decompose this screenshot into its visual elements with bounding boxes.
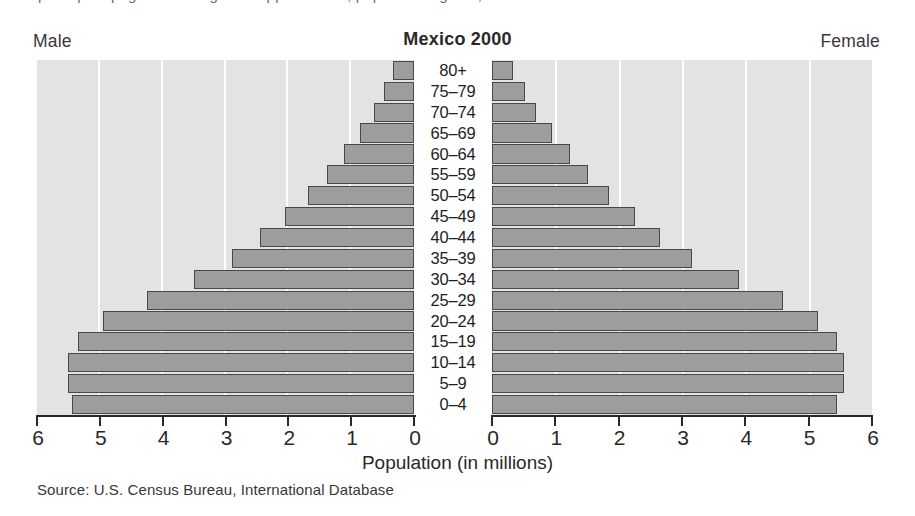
bar-male-25–29: [147, 291, 414, 310]
bar-female-40–44: [492, 228, 660, 247]
age-group-axis: 80+75–7970–7465–6960–6455–5950–5445–4940…: [414, 60, 492, 415]
tick-2: [618, 415, 620, 426]
chart-title: Mexico 2000: [0, 29, 915, 50]
bar-female-70–74: [492, 103, 536, 122]
age-label-55–59: 55–59: [414, 165, 492, 184]
bar-female-50–54: [492, 186, 609, 205]
tick-5: [808, 415, 810, 426]
tick-label-4: 4: [144, 426, 184, 450]
age-label-80+: 80+: [414, 61, 492, 80]
bar-female-55–59: [492, 165, 588, 184]
male-axis-line: [37, 415, 416, 417]
age-label-50–54: 50–54: [414, 186, 492, 205]
bar-male-80+: [393, 61, 414, 80]
bar-female-80+: [492, 61, 513, 80]
age-label-45–49: 45–49: [414, 207, 492, 226]
bar-male-20–24: [103, 311, 414, 330]
female-plot-panel: [492, 60, 872, 415]
age-label-10–14: 10–14: [414, 353, 492, 372]
bar-female-30–34: [492, 270, 739, 289]
tick-4: [162, 415, 164, 426]
bar-male-30–34: [194, 270, 414, 289]
tick-label-2: 2: [600, 426, 640, 450]
bar-male-75–79: [384, 82, 414, 101]
tick-0: [413, 415, 415, 426]
age-label-35–39: 35–39: [414, 249, 492, 268]
tick-label-3: 3: [663, 426, 703, 450]
age-label-65–69: 65–69: [414, 124, 492, 143]
bar-male-50–54: [308, 186, 414, 205]
bar-female-75–79: [492, 82, 525, 101]
tick-1: [554, 415, 556, 426]
population-pyramid-figure: perhaps a page of running text clipped a…: [0, 0, 915, 516]
source-note: Source: U.S. Census Bureau, Internationa…: [37, 481, 394, 498]
bar-female-25–29: [492, 291, 783, 310]
age-label-20–24: 20–24: [414, 312, 492, 331]
bar-male-45–49: [285, 207, 414, 226]
bar-female-35–39: [492, 249, 692, 268]
tick-label-1: 1: [536, 426, 576, 450]
tick-3: [225, 415, 227, 426]
female-side-label: Female: [820, 31, 880, 52]
tick-0: [491, 415, 493, 426]
tick-label-6: 6: [18, 426, 58, 450]
age-label-70–74: 70–74: [414, 103, 492, 122]
bar-female-10–14: [492, 353, 844, 372]
bar-male-65–69: [360, 123, 414, 142]
tick-label-6: 6: [853, 426, 893, 450]
bar-female-45–49: [492, 207, 635, 226]
clipped-top-text: perhaps a page of running text clipped a…: [38, 0, 658, 4]
bar-male-35–39: [232, 249, 414, 268]
tick-6: [871, 415, 873, 426]
bar-male-10–14: [68, 353, 414, 372]
tick-5: [99, 415, 101, 426]
bar-male-0–4: [72, 395, 414, 414]
tick-label-0: 0: [395, 426, 435, 450]
age-label-0–4: 0–4: [414, 395, 492, 414]
bar-male-40–44: [260, 228, 414, 247]
bar-female-60–64: [492, 144, 570, 163]
tick-label-1: 1: [332, 426, 372, 450]
bar-female-5–9: [492, 374, 844, 393]
age-label-30–34: 30–34: [414, 270, 492, 289]
tick-label-5: 5: [790, 426, 830, 450]
age-label-5–9: 5–9: [414, 374, 492, 393]
bar-female-20–24: [492, 311, 818, 330]
tick-3: [681, 415, 683, 426]
age-label-25–29: 25–29: [414, 291, 492, 310]
bar-male-70–74: [374, 103, 414, 122]
x-axis-label: Population (in millions): [0, 452, 915, 474]
tick-6: [36, 415, 38, 426]
tick-1: [350, 415, 352, 426]
bar-female-0–4: [492, 395, 837, 414]
tick-2: [287, 415, 289, 426]
bar-male-60–64: [344, 144, 414, 163]
tick-label-5: 5: [81, 426, 121, 450]
tick-4: [744, 415, 746, 426]
bar-female-15–19: [492, 332, 837, 351]
age-label-40–44: 40–44: [414, 228, 492, 247]
tick-label-3: 3: [207, 426, 247, 450]
bar-male-55–59: [327, 165, 414, 184]
age-label-60–64: 60–64: [414, 145, 492, 164]
tick-label-4: 4: [726, 426, 766, 450]
bar-male-5–9: [68, 374, 414, 393]
age-label-15–19: 15–19: [414, 332, 492, 351]
bar-male-15–19: [78, 332, 414, 351]
tick-label-0: 0: [473, 426, 513, 450]
age-label-75–79: 75–79: [414, 82, 492, 101]
tick-label-2: 2: [269, 426, 309, 450]
male-plot-panel: [37, 60, 414, 415]
bar-female-65–69: [492, 123, 552, 142]
